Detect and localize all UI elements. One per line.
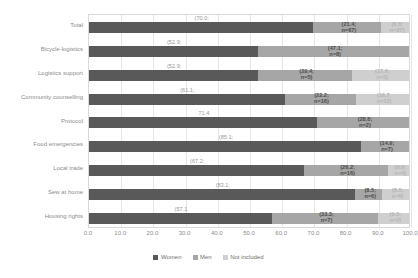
stacked-bar bbox=[89, 70, 409, 81]
category-label: Logistics support bbox=[38, 70, 83, 77]
bar-row: 71.4(28.6;n=2) bbox=[89, 110, 409, 134]
bar-segment-not-included bbox=[378, 213, 408, 224]
data-label-women: (57.1 bbox=[175, 206, 188, 212]
stacked-bar bbox=[89, 94, 409, 105]
x-axis-tick-label: 30.0 bbox=[179, 230, 191, 236]
category-axis-labels: TotalBicycle-logisticsLogistics supportC… bbox=[0, 14, 88, 228]
bar-segment-men bbox=[272, 213, 379, 224]
bar-segment-men bbox=[361, 141, 409, 152]
bar-segment-not-included bbox=[388, 165, 409, 176]
x-axis-tick-label: 80.0 bbox=[340, 230, 352, 236]
legend-label: Women bbox=[161, 254, 182, 260]
bar-row: (57.1(33.3;n=7)(9.5;n=2) bbox=[89, 205, 409, 229]
data-label-women: (67.2; bbox=[190, 158, 204, 164]
stacked-bar bbox=[89, 46, 409, 57]
bar-segment-women bbox=[89, 94, 285, 105]
x-axis-tick-label: 50.0 bbox=[243, 230, 255, 236]
bar-segment-men bbox=[285, 94, 356, 105]
stacked-bar bbox=[89, 165, 409, 176]
category-label: Sew at home bbox=[48, 189, 83, 196]
data-label-women: (85.1; bbox=[219, 134, 233, 140]
bar-segment-not-included bbox=[381, 22, 409, 33]
bar-segment-women bbox=[89, 141, 361, 152]
legend-item-women[interactable]: Women bbox=[153, 254, 181, 260]
bar-rows: (70.0;(21.4;n=67)(8.6;n=27)(52.9;(47.1;n… bbox=[89, 15, 409, 227]
stacked-bar bbox=[89, 117, 409, 128]
stacked-bar bbox=[89, 189, 409, 200]
bar-row: (70.0;(21.4;n=67)(8.6;n=27) bbox=[89, 15, 409, 39]
category-label: Bicycle-logistics bbox=[41, 46, 83, 53]
legend-label: Not included bbox=[230, 254, 263, 260]
data-label-women: (70.0; bbox=[195, 15, 209, 21]
x-axis-tick-label: 10.0 bbox=[114, 230, 126, 236]
data-label-women: (61.1; bbox=[180, 87, 194, 93]
bar-segment-men bbox=[258, 46, 409, 57]
x-axis-tick-label: 20.0 bbox=[147, 230, 159, 236]
data-label-women: 71.4 bbox=[199, 110, 210, 116]
stacked-bar bbox=[89, 213, 409, 224]
bar-segment-men bbox=[258, 70, 352, 81]
x-axis-tick-label: 90.0 bbox=[372, 230, 384, 236]
bar-row: (52.9;(47.1;n=8) bbox=[89, 39, 409, 63]
legend-swatch-icon bbox=[193, 255, 198, 260]
bar-segment-not-included bbox=[382, 189, 409, 200]
bar-segment-women bbox=[89, 70, 258, 81]
x-axis-tick-label: 100.0 bbox=[402, 230, 417, 236]
bar-segment-men bbox=[313, 22, 381, 33]
category-label: Total bbox=[70, 22, 83, 29]
legend-label: Men bbox=[200, 254, 212, 260]
category-label: Local trade bbox=[53, 165, 83, 172]
x-axis-tick-label: 0.0 bbox=[84, 230, 92, 236]
data-label-women: (83.1; bbox=[216, 182, 230, 188]
category-label: Protocol bbox=[61, 118, 83, 125]
bar-segment-not-included bbox=[352, 70, 408, 81]
bar-row: (83.1;(8.5;n=6)(8.5;n=6) bbox=[89, 181, 409, 205]
x-axis-tick-label: 40.0 bbox=[211, 230, 223, 236]
bar-row: (61.1;(22.2;n=16)(16.7;n=12) bbox=[89, 86, 409, 110]
stacked-bar bbox=[89, 22, 409, 33]
legend-item-men[interactable]: Men bbox=[193, 254, 212, 260]
stacked-bar bbox=[89, 141, 409, 152]
bar-segment-men bbox=[355, 189, 382, 200]
bar-row: (52.9;(29.4;n=5)(17.6;n=3) bbox=[89, 63, 409, 87]
data-label-women: (52.9; bbox=[167, 39, 181, 45]
legend-item-not-included[interactable]: Not included bbox=[223, 254, 264, 260]
data-label-women: (52.9; bbox=[167, 63, 181, 69]
legend-swatch-icon bbox=[153, 255, 158, 260]
bar-segment-women bbox=[89, 213, 272, 224]
x-axis-tick-label: 70.0 bbox=[308, 230, 320, 236]
category-label: Housing rights bbox=[45, 213, 83, 220]
bar-segment-women bbox=[89, 46, 258, 57]
gridline bbox=[411, 15, 412, 227]
bar-segment-women bbox=[89, 117, 317, 128]
bar-segment-women bbox=[89, 22, 313, 33]
bar-segment-not-included bbox=[356, 94, 409, 105]
legend-swatch-icon bbox=[223, 255, 228, 260]
bar-row: (85.1;(14.9;n=7) bbox=[89, 134, 409, 158]
bar-segment-women bbox=[89, 165, 304, 176]
chart-legend: WomenMenNot included bbox=[0, 254, 417, 260]
category-label: Food emergencies bbox=[33, 141, 83, 148]
x-axis: 0.010.020.030.040.050.060.070.080.090.01… bbox=[88, 230, 410, 242]
category-label: Community counselling bbox=[21, 94, 83, 101]
bar-segment-men bbox=[304, 165, 388, 176]
bar-row: (67.2;(26.2;n=16)(6.6;n=4) bbox=[89, 158, 409, 182]
x-axis-tick-label: 60.0 bbox=[275, 230, 287, 236]
bar-segment-women bbox=[89, 189, 355, 200]
plot-area: (70.0;(21.4;n=67)(8.6;n=27)(52.9;(47.1;n… bbox=[88, 14, 410, 228]
bar-segment-men bbox=[317, 117, 409, 128]
